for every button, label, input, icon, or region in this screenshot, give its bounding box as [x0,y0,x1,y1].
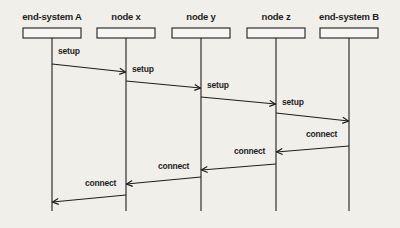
message-label-setup: setup [282,97,304,107]
participant-box [320,28,378,38]
participant-title: end-system B [304,11,394,22]
message-label-connect: connect [158,161,189,171]
participant-box [172,28,230,38]
message-label-setup: setup [207,80,229,90]
message-arrow-setup [52,64,126,72]
message-arrow-setup [126,81,201,88]
participant-y [172,28,230,211]
message-label-setup: setup [132,64,154,74]
participant-z [247,28,305,211]
message-arrow-setup [276,113,349,121]
message-arrow-connect [202,164,277,170]
message-label-setup: setup [58,46,80,56]
participant-box [247,28,305,38]
message-arrow-connect [53,195,127,202]
message-arrow-setup [201,97,276,104]
message-label-connect: connect [85,178,116,188]
participant-box [23,28,81,38]
message-arrow-connect [127,177,202,184]
diagram-canvas [0,0,400,228]
message-label-connect: connect [306,129,337,139]
participant-B [320,28,378,211]
message-label-connect: connect [234,146,265,156]
participant-box [97,28,155,38]
message-arrow-connect [277,146,350,152]
sequence-diagram: end-system Anode xnode ynode zend-system… [0,0,400,228]
